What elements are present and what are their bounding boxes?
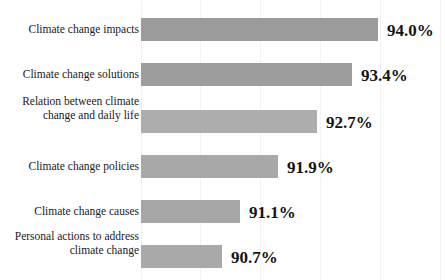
category-label: Relation between climate change and dail…	[0, 94, 139, 122]
gridline-1	[200, 0, 201, 280]
gridline-3	[320, 0, 321, 280]
category-label: Climate change policies	[0, 159, 139, 173]
bar-value-label: 93.4%	[361, 64, 408, 87]
bar-row: Relation between climate change and dail…	[0, 110, 445, 133]
bar-row: Climate change solutions93.4%	[0, 63, 445, 86]
gridline-0	[141, 0, 142, 280]
category-label: Personal actions to address climate chan…	[0, 229, 139, 257]
bar	[141, 110, 317, 133]
bar-value-label: 91.1%	[249, 201, 296, 224]
bar-value-label: 94.0%	[387, 19, 434, 42]
bar-row: Climate change impacts94.0%	[0, 18, 445, 41]
bar-row: Climate change policies91.9%	[0, 155, 445, 178]
bar	[141, 155, 278, 178]
gridline-5	[440, 0, 441, 280]
category-label: Climate change causes	[0, 204, 139, 218]
bar	[141, 18, 378, 41]
bar	[141, 200, 240, 223]
category-label: Climate change solutions	[0, 67, 139, 81]
gridline-4	[380, 0, 381, 280]
bar	[141, 63, 352, 86]
bar-value-label: 90.7%	[231, 246, 278, 269]
horizontal-bar-chart: Climate change impacts94.0%Climate chang…	[0, 0, 445, 280]
category-label: Climate change impacts	[0, 22, 139, 36]
bar	[141, 245, 222, 268]
bar-value-label: 92.7%	[326, 111, 373, 134]
bar-row: Climate change causes91.1%	[0, 200, 445, 223]
bar-value-label: 91.9%	[287, 156, 334, 179]
gridline-2	[260, 0, 261, 280]
bar-row: Personal actions to address climate chan…	[0, 245, 445, 268]
